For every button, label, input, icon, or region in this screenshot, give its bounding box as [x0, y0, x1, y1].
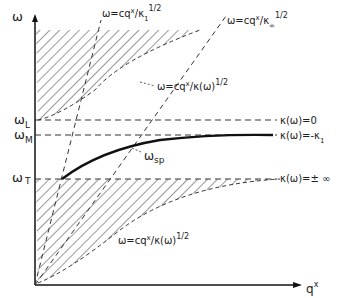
omega-T-label: ωT: [12, 170, 31, 186]
kappa-minus-label: κ(ω)=-κ1: [280, 130, 324, 145]
omega-sp-label: ωsp: [144, 149, 165, 165]
y-axis-label: ω: [12, 9, 23, 24]
kappa-inf-label: κ(ω)=± ∞: [280, 173, 330, 184]
x-axis-arrow-icon: [293, 282, 302, 288]
surface-mode-curve: [62, 135, 273, 179]
y-axis-arrow-icon: [32, 14, 38, 22]
diagram-canvas: ω qx ωL ωM ωT κ(ω)=0 κ(ω)=-κ1 κ(ω)=± ∞ ω…: [0, 0, 342, 298]
upper-curve-leader: [140, 82, 155, 86]
light-line-kappa-inf-label: ω=cqx/κ∞1/2: [227, 11, 288, 30]
light-line-kappa1-label: ω=cqx/κ11/2: [102, 4, 161, 23]
kappa-zero-label: κ(ω)=0: [280, 115, 317, 126]
lower-curve-label: ω=cqx/κ(ω)1/2: [118, 232, 189, 246]
x-axis-label: qx: [306, 280, 319, 296]
dispersion-diagram: ω qx ωL ωM ωT κ(ω)=0 κ(ω)=-κ1 κ(ω)=± ∞ ω…: [0, 0, 342, 298]
upper-curve-label: ω=cqx/κ(ω)1/2: [157, 78, 228, 92]
sp-leader: [132, 148, 141, 152]
